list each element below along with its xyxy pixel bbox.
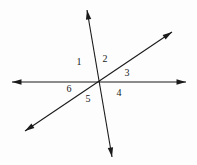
lines-group <box>12 10 186 157</box>
angle-label-5: 5 <box>81 94 95 105</box>
angle-label-4: 4 <box>112 88 126 99</box>
arrowhead-diagonal-line-end <box>163 32 172 40</box>
steep-line <box>87 10 112 157</box>
angle-label-2: 2 <box>98 54 112 65</box>
angle-diagram: 123456 <box>0 0 197 165</box>
angle-label-6: 6 <box>62 84 76 95</box>
angle-label-1: 1 <box>72 57 86 68</box>
diagram-canvas <box>0 0 197 165</box>
arrowhead-diagonal-line-start <box>25 123 34 131</box>
arrowhead-horizontal-line-end <box>177 79 187 84</box>
arrowhead-horizontal-line-start <box>12 79 22 84</box>
angle-label-3: 3 <box>120 68 134 79</box>
